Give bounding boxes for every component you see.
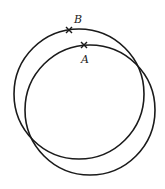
circle-upper-left	[14, 29, 144, 159]
circle-lower-right	[25, 45, 155, 175]
point-a-label: A	[80, 53, 89, 66]
point-b-label: B	[73, 13, 82, 26]
geometry-diagram: B A	[0, 0, 165, 189]
